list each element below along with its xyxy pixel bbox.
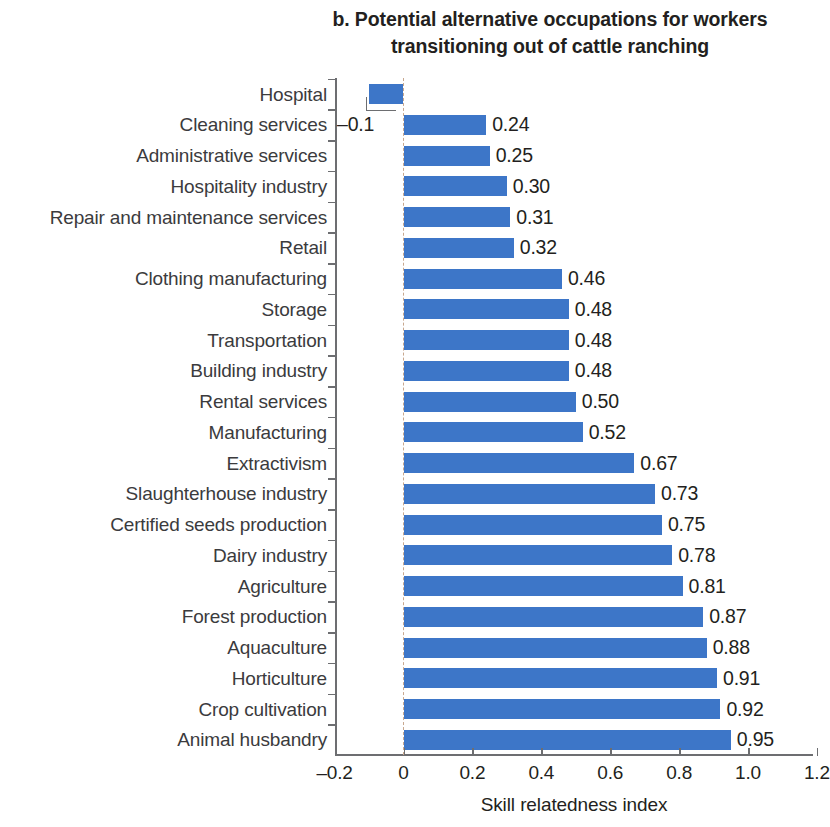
category-label: Storage [262, 294, 328, 325]
category-label: Dairy industry [213, 540, 327, 571]
bar-row: Cleaning services0.24 [0, 109, 827, 140]
bar-row: Animal husbandry0.95 [0, 724, 827, 755]
x-axis-tick-label: 0.4 [528, 762, 554, 784]
bar-row: Administrative services0.25 [0, 140, 827, 171]
bar-row: Hospitality industry0.30 [0, 171, 827, 202]
category-label: Animal husbandry [177, 724, 327, 755]
bar-row: Dairy industry0.78 [0, 540, 827, 571]
category-label: Horticulture [232, 663, 327, 694]
bar [404, 115, 487, 135]
x-axis-tick [610, 748, 612, 756]
category-label: Clothing manufacturing [135, 263, 327, 294]
bar [404, 668, 717, 688]
bar-row: Certified seeds production0.75 [0, 509, 827, 540]
x-axis-tick [335, 748, 337, 756]
bar-row: Repair and maintenance services0.31 [0, 202, 827, 233]
y-axis-tick [328, 140, 336, 142]
bar [404, 207, 511, 227]
bar-value-label: 0.91 [723, 663, 760, 694]
category-label: Hospitality industry [171, 171, 327, 202]
bar [404, 330, 569, 350]
category-label: Forest production [182, 601, 327, 632]
bar-row: Aquaculture0.88 [0, 632, 827, 663]
bar-row: Agriculture0.81 [0, 571, 827, 602]
category-label: Manufacturing [209, 417, 327, 448]
bar-row: Building industry0.48 [0, 355, 827, 386]
category-label: Repair and maintenance services [50, 202, 327, 233]
bar [404, 392, 576, 412]
category-label: Cleaning services [180, 109, 327, 140]
bar-row: Manufacturing0.52 [0, 417, 827, 448]
bar [404, 146, 490, 166]
bar-row: Slaughterhouse industry0.73 [0, 478, 827, 509]
y-axis-tick [328, 109, 336, 111]
negative-value-leader-line [366, 97, 396, 111]
bar-value-label: 0.67 [640, 448, 677, 479]
x-axis-tick [817, 748, 819, 756]
bar-value-label: 0.88 [713, 632, 750, 663]
bar [404, 699, 721, 719]
x-axis-tick-label: –0.2 [317, 762, 353, 784]
bar-value-label: 0.92 [726, 694, 763, 725]
bar-row: Forest production0.87 [0, 601, 827, 632]
bar-value-label: 0.73 [661, 478, 698, 509]
bar-row: Crop cultivation0.92 [0, 694, 827, 725]
bar [404, 269, 562, 289]
y-axis-tick [328, 509, 336, 511]
bar-value-label: 0.31 [516, 202, 553, 233]
bar [404, 515, 662, 535]
bar [404, 299, 569, 319]
negative-value-label: –0.1 [337, 110, 374, 138]
bar-value-label: 0.75 [668, 509, 705, 540]
y-axis-tick [328, 417, 336, 419]
category-label: Aquaculture [227, 632, 327, 663]
y-axis-tick [328, 232, 336, 234]
y-axis-tick [328, 325, 336, 327]
y-axis-tick [328, 571, 336, 573]
x-axis-title: Skill relatedness index [335, 794, 813, 816]
bar [404, 576, 683, 596]
category-label: Building industry [190, 355, 327, 386]
x-axis-tick-label: 1.0 [735, 762, 761, 784]
bar-row: Transportation0.48 [0, 325, 827, 356]
y-axis-tick [328, 478, 336, 480]
bar-value-label: 0.48 [575, 325, 612, 356]
y-axis-tick [328, 448, 336, 450]
y-axis-tick [328, 601, 336, 603]
category-label: Transportation [207, 325, 327, 356]
category-label: Administrative services [136, 140, 327, 171]
bar [404, 176, 507, 196]
bar-value-label: 0.81 [689, 571, 726, 602]
bar-row: Horticulture0.91 [0, 663, 827, 694]
y-axis-tick [328, 79, 336, 81]
category-label: Agriculture [238, 571, 327, 602]
x-axis-tick-label: 1.2 [804, 762, 830, 784]
y-axis-tick [328, 663, 336, 665]
category-label: Retail [279, 232, 327, 263]
bar-row: Clothing manufacturing0.46 [0, 263, 827, 294]
category-label: Crop cultivation [198, 694, 327, 725]
x-axis-tick [404, 748, 406, 756]
bar-value-label: 0.48 [575, 355, 612, 386]
y-axis-tick [328, 694, 336, 696]
x-axis-tick-label: 0.8 [666, 762, 692, 784]
y-axis-tick [328, 724, 336, 726]
x-axis-tick-label: 0.6 [597, 762, 623, 784]
bar-value-label: 0.48 [575, 294, 612, 325]
bar-value-label: 0.50 [582, 386, 619, 417]
x-axis-tick-label: 0.2 [459, 762, 485, 784]
x-axis-tick-label: 0 [398, 762, 408, 784]
y-axis-tick [328, 355, 336, 357]
y-axis-tick [328, 540, 336, 542]
bar [404, 730, 731, 750]
bar-row: Rental services0.50 [0, 386, 827, 417]
category-label: Hospital [260, 79, 327, 110]
x-axis-tick [748, 748, 750, 756]
bar-value-label: 0.46 [568, 263, 605, 294]
bar-row: Retail0.32 [0, 232, 827, 263]
bar [404, 607, 704, 627]
x-axis-tick [472, 748, 474, 756]
category-label: Certified seeds production [110, 509, 327, 540]
y-axis-tick [328, 171, 336, 173]
